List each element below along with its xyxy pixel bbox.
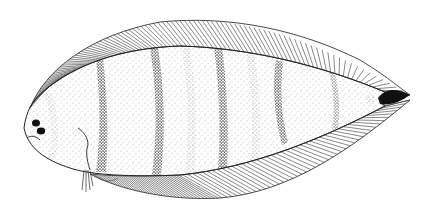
fish-illustration	[0, 0, 434, 209]
illustration-canvas: Stippled scientific drawing of a flatfis…	[0, 0, 434, 209]
lower-eye-icon	[37, 128, 45, 135]
upper-eye-icon	[32, 119, 40, 126]
